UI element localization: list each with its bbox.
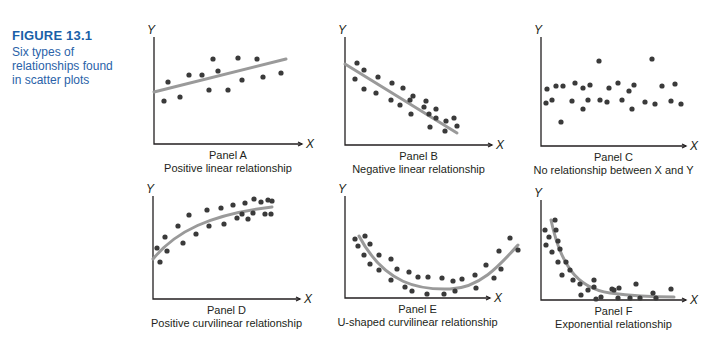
data-point: [557, 246, 562, 251]
data-point: [611, 287, 616, 292]
data-point: [177, 94, 182, 99]
panel-f: YXPanel FExponential relationship: [534, 186, 699, 330]
data-point: [400, 85, 405, 90]
x-axis-label: X: [303, 292, 313, 306]
data-point: [560, 83, 565, 88]
data-point: [637, 295, 642, 300]
data-point: [549, 249, 554, 254]
data-point: [498, 266, 503, 271]
data-point: [426, 111, 431, 116]
y-axis-label: Y: [147, 23, 156, 37]
x-axis-label: X: [305, 137, 315, 151]
data-point: [254, 56, 259, 61]
data-point: [591, 284, 596, 289]
data-point: [452, 288, 457, 293]
x-axis-label: X: [689, 139, 699, 153]
fit-line: [551, 220, 674, 297]
data-point: [580, 106, 585, 111]
fit-line: [359, 236, 518, 289]
data-point: [250, 210, 255, 215]
data-point: [451, 115, 456, 120]
data-point: [585, 287, 590, 292]
data-point: [653, 295, 658, 300]
data-point: [402, 284, 407, 289]
data-point: [549, 97, 554, 102]
data-point: [642, 99, 647, 104]
data-point: [553, 227, 558, 232]
data-point: [615, 295, 620, 300]
data-point: [629, 106, 634, 111]
y-axis-label: Y: [146, 182, 155, 196]
data-point: [361, 252, 366, 257]
data-point: [225, 87, 230, 92]
data-point: [678, 101, 683, 106]
y-axis-label: Y: [338, 23, 347, 37]
data-point: [587, 82, 592, 87]
data-point: [633, 281, 638, 286]
data-point: [408, 111, 413, 116]
data-point: [459, 276, 464, 281]
axis-lines: [153, 196, 300, 299]
data-point: [157, 259, 162, 264]
data-point: [258, 199, 263, 204]
data-point: [659, 83, 664, 88]
data-point: [164, 248, 169, 253]
data-point: [239, 77, 244, 82]
data-point: [210, 56, 215, 61]
data-point: [542, 227, 547, 232]
data-point: [199, 72, 204, 77]
panel-label: Panel B: [399, 150, 438, 162]
data-point: [376, 252, 381, 257]
data-point: [442, 128, 447, 133]
data-point: [578, 292, 583, 297]
data-point: [443, 118, 448, 123]
data-point: [154, 245, 159, 250]
data-point: [425, 274, 430, 279]
data-point: [242, 200, 247, 205]
data-point: [483, 262, 488, 267]
panel-label: Panel F: [595, 305, 633, 317]
fit-line: [345, 64, 457, 133]
y-axis-label: Y: [534, 23, 543, 37]
x-axis-label: X: [495, 138, 505, 152]
data-point: [407, 97, 412, 102]
data-point: [439, 275, 444, 280]
data-point: [245, 216, 250, 221]
scatter-plot-grid: YXPanel APositive linear relationshipYXP…: [0, 0, 723, 348]
data-point: [441, 291, 446, 296]
data-point: [598, 294, 603, 299]
data-point: [388, 256, 393, 261]
panel-c: YXPanel CNo relationship between X and Y: [533, 23, 699, 176]
data-point: [218, 205, 223, 210]
data-point: [269, 198, 274, 203]
data-point: [230, 202, 235, 207]
data-point: [421, 104, 426, 109]
data-point: [268, 211, 273, 216]
data-point: [585, 97, 590, 102]
y-axis-label: Y: [534, 186, 543, 200]
data-point: [165, 79, 170, 84]
data-point: [546, 234, 551, 239]
panel-label: Panel C: [594, 151, 633, 163]
data-point: [162, 234, 167, 239]
data-point: [572, 80, 577, 85]
axis-lines: [541, 200, 686, 300]
data-point: [388, 97, 393, 102]
data-point: [367, 261, 372, 266]
data-point: [278, 70, 283, 75]
data-point: [650, 290, 655, 295]
data-point: [559, 272, 564, 277]
data-point: [373, 90, 378, 95]
data-point: [626, 88, 631, 93]
panel-subtitle: Negative linear relationship: [352, 163, 485, 175]
data-point: [355, 243, 360, 248]
data-point: [175, 223, 180, 228]
data-point: [577, 281, 582, 286]
data-point: [569, 98, 574, 103]
panel-label: Panel E: [398, 303, 437, 315]
data-point: [388, 277, 393, 282]
panel-e: YXPanel EU-shaped curvilinear relationsh…: [337, 182, 520, 328]
data-point: [352, 76, 357, 81]
panel-subtitle: Positive linear relationship: [164, 162, 292, 174]
panel-subtitle: Positive curvilinear relationship: [151, 317, 302, 329]
